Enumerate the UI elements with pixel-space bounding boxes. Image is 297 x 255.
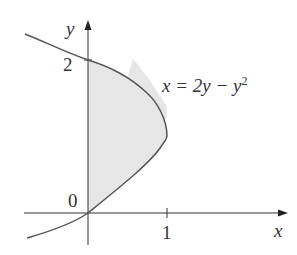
- curve-equation-text: x = 2y − y: [162, 75, 241, 96]
- origin-label: 0: [68, 190, 78, 212]
- shaded-region-fix: [88, 60, 167, 213]
- y-axis-arrow-icon: [85, 20, 92, 30]
- y-axis-label: y: [66, 18, 74, 40]
- y-tick-label: 2: [63, 54, 73, 76]
- x-tick-label: 1: [162, 222, 172, 244]
- x-axis-label: x: [274, 220, 282, 242]
- curve-equation-label: x = 2y − y2: [162, 74, 247, 97]
- x-axis-arrow-icon: [278, 210, 288, 217]
- diagram-canvas: [0, 0, 297, 255]
- curve-equation-exponent: 2: [241, 74, 247, 88]
